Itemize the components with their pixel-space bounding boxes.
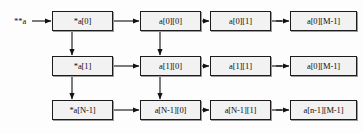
node-label: a[0][M-1] (307, 17, 340, 26)
node-r1-c1: a[1][0] (140, 56, 201, 76)
node-label: *a[0] (74, 17, 91, 26)
entry-pointer-label: **a (14, 17, 26, 26)
node-label: a[0][1] (229, 17, 252, 26)
node-r0-c2: a[0][1] (210, 11, 271, 31)
node-r0-c3: a[0][M-1] (290, 11, 357, 31)
node-r2-c3: a[n-1][M-1] (290, 100, 357, 120)
node-label: a[0][M-1] (307, 62, 340, 71)
node-label: *a[1] (74, 62, 91, 71)
node-r0-c1: a[0][0] (140, 11, 201, 31)
node-label: a[1][0] (159, 62, 182, 71)
node-r2-c0: *a[N-1] (52, 100, 113, 120)
node-label: *a[N-1] (69, 106, 95, 115)
node-label: a[N-1][1] (225, 106, 257, 115)
node-label: a[0][0] (159, 17, 182, 26)
node-label: a[n-1][M-1] (304, 106, 344, 115)
node-r0-c0: *a[0] (52, 11, 113, 31)
node-label: a[N-1][0] (155, 106, 187, 115)
pointer-array-diagram: **a *a[0] a[0][0] a[0][1] a[0][M-1] *a[1… (0, 0, 363, 133)
node-r1-c0: *a[1] (52, 56, 113, 76)
node-r2-c1: a[N-1][0] (140, 100, 201, 120)
node-r2-c2: a[N-1][1] (210, 100, 271, 120)
node-r1-c2: a[1][1] (210, 56, 271, 76)
node-label: a[1][1] (229, 62, 252, 71)
node-r1-c3: a[0][M-1] (290, 56, 357, 76)
